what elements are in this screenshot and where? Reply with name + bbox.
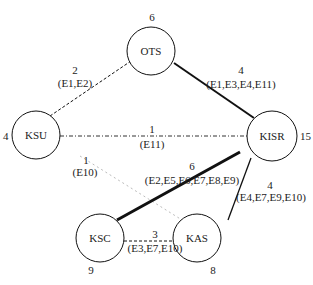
node-ksc: KSC 9 bbox=[76, 214, 124, 276]
edge-experts: (E1,E2) bbox=[58, 77, 93, 90]
edge-experts: (E4,E7,E9,E10) bbox=[236, 191, 306, 204]
node-label-ksu: KSU bbox=[25, 129, 47, 141]
edge-experts: (E3,E7,E10) bbox=[128, 242, 183, 255]
edge-label-ksu-kas: 1 (E10) bbox=[72, 154, 97, 179]
edge-weight: 2 bbox=[72, 64, 78, 76]
edge-weight: 1 bbox=[149, 123, 155, 135]
node-degree-ksu: 4 bbox=[3, 130, 9, 142]
edge-weight: 3 bbox=[152, 228, 158, 240]
edge-ksc-kisr bbox=[117, 152, 240, 220]
node-label-kisr: KISR bbox=[259, 130, 285, 142]
node-label-kas: KAS bbox=[186, 232, 208, 244]
edge-weight: 1 bbox=[83, 154, 89, 166]
edge-weight: 6 bbox=[189, 160, 195, 172]
collaboration-network-diagram: OTS 6 KSU 4 KISR 15 KSC 9 KAS 8 2 (E1,E2… bbox=[0, 0, 313, 285]
edge-experts: (E10) bbox=[72, 166, 97, 179]
edge-experts: (E2,E5,E6,E7,E8,E9) bbox=[145, 174, 240, 187]
node-ots: OTS 6 bbox=[127, 11, 175, 75]
edge-label-ksu-ots: 2 (E1,E2) bbox=[58, 64, 93, 90]
edge-weight: 4 bbox=[238, 64, 244, 76]
edge-weight: 4 bbox=[267, 179, 273, 191]
node-kisr: KISR 15 bbox=[247, 111, 312, 161]
node-degree-ots: 6 bbox=[149, 11, 155, 23]
edge-label-ots-kisr: 4 (E1,E3,E4,E11) bbox=[206, 64, 276, 91]
edge-label-ksu-kisr: 1 (E11) bbox=[140, 123, 165, 151]
edge-experts: (E1,E3,E4,E11) bbox=[206, 78, 276, 91]
edge-label-ksc-kisr: 6 (E2,E5,E6,E7,E8,E9) bbox=[145, 160, 240, 187]
node-label-ksc: KSC bbox=[89, 232, 110, 244]
node-label-ots: OTS bbox=[141, 45, 162, 57]
node-degree-kisr: 15 bbox=[300, 130, 312, 142]
edge-experts: (E11) bbox=[140, 138, 165, 151]
node-ksu: KSU 4 bbox=[3, 111, 60, 159]
edge-kisr-kas bbox=[228, 158, 251, 220]
node-degree-kas: 8 bbox=[210, 264, 216, 276]
edge-label-kisr-kas: 4 (E4,E7,E9,E10) bbox=[236, 179, 306, 204]
node-degree-ksc: 9 bbox=[88, 264, 94, 276]
